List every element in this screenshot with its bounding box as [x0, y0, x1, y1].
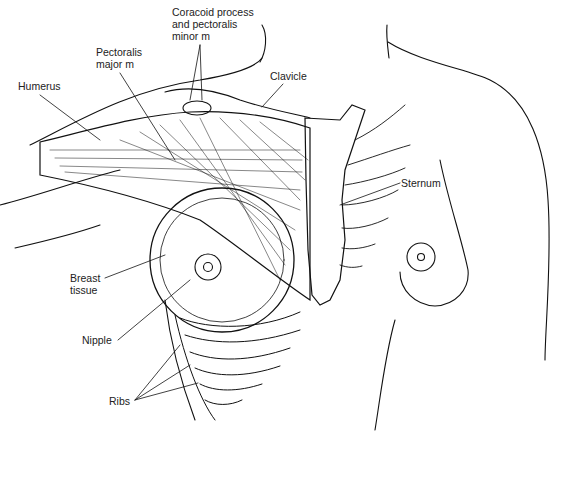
label-coracoid: Coracoid process and pectoralis minor m	[172, 6, 254, 42]
label-sternum: Sternum	[401, 177, 441, 189]
leader-coracoid-1	[190, 45, 200, 100]
rib-cartilage-lines	[340, 105, 410, 267]
label-nipple: Nipple	[82, 334, 112, 346]
sternum-outline	[305, 105, 365, 305]
right-nipple	[418, 254, 425, 261]
left-shoulder-contour	[30, 58, 262, 145]
leader-breast	[105, 255, 165, 278]
left-arm-line	[15, 225, 100, 248]
coracoid-process	[183, 101, 211, 115]
label-breast-tissue: Breast tissue	[70, 272, 100, 296]
pectoralis-fibers	[50, 118, 308, 280]
label-pectoralis-major: Pectoralis major m	[96, 46, 142, 70]
left-areola	[195, 254, 221, 280]
label-clavicle: Clavicle	[270, 70, 307, 82]
neck-left-line	[260, 25, 266, 62]
left-nipple	[204, 263, 213, 272]
leader-ribs-3	[135, 383, 198, 400]
label-humerus: Humerus	[18, 80, 61, 92]
right-shoulder-contour	[388, 42, 549, 360]
leader-coracoid-2	[200, 45, 202, 100]
label-ribs: Ribs	[109, 395, 130, 407]
leader-humerus	[40, 95, 100, 140]
leader-lines	[40, 45, 400, 400]
left-breast-inner	[160, 198, 284, 322]
abdomen-line	[375, 320, 395, 430]
leader-ribs-1	[135, 345, 180, 400]
right-areola	[407, 243, 435, 271]
leader-ribs-2	[135, 365, 190, 400]
ribs-drawing	[175, 312, 300, 420]
leader-clavicle	[262, 84, 283, 107]
left-arm-lower	[0, 170, 120, 205]
